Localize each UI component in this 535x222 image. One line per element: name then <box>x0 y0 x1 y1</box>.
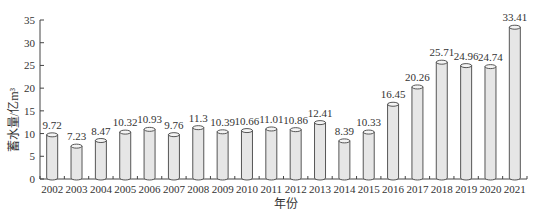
x-tick-label: 2017 <box>406 183 429 195</box>
bar: 11.01 <box>259 113 283 180</box>
bar: 9.76 <box>164 119 184 180</box>
bar-value-label: 11.01 <box>259 113 283 125</box>
bar-value-label: 12.41 <box>308 107 333 119</box>
bar: 25.71 <box>429 46 454 180</box>
bar: 10.32 <box>113 116 138 180</box>
bar: 24.74 <box>478 51 503 180</box>
x-axis: 2002200320042005200620072008200920102011… <box>40 176 527 195</box>
bar: 10.66 <box>235 115 260 180</box>
x-tick-label: 2002 <box>41 183 63 195</box>
x-tick-label: 2004 <box>90 183 113 195</box>
bar: 7.23 <box>67 130 87 180</box>
bars: 9.727.238.4710.3210.939.7611.310.3910.66… <box>43 11 528 180</box>
x-tick-label: 2003 <box>66 183 89 195</box>
bar-value-label: 10.39 <box>210 116 235 128</box>
bar-value-label: 33.41 <box>502 11 527 23</box>
x-tick-label: 2012 <box>285 183 307 195</box>
bar-value-label: 25.71 <box>429 46 454 58</box>
bar-value-label: 10.86 <box>283 114 308 126</box>
bar-value-label: 10.32 <box>113 116 138 128</box>
bar-value-label: 24.74 <box>478 51 503 63</box>
x-tick-label: 2009 <box>212 183 235 195</box>
y-axis: 05101520253035 <box>24 14 44 185</box>
bar: 10.33 <box>356 116 381 180</box>
x-tick-label: 2006 <box>139 183 162 195</box>
x-tick-label: 2016 <box>382 183 405 195</box>
x-tick-label: 2007 <box>163 183 186 195</box>
x-tick-label: 2014 <box>333 183 356 195</box>
bar-value-label: 10.66 <box>235 115 260 127</box>
bar-value-label: 20.26 <box>405 71 430 83</box>
y-tick-label: 5 <box>30 150 36 162</box>
y-tick-label: 25 <box>24 59 36 71</box>
bar-value-label: 11.3 <box>189 112 208 124</box>
x-tick-label: 2021 <box>504 183 526 195</box>
y-tick-label: 35 <box>24 14 36 26</box>
x-tick-label: 2015 <box>358 183 381 195</box>
x-tick-label: 2019 <box>455 183 478 195</box>
bar: 10.39 <box>210 116 235 180</box>
bar-value-label: 16.45 <box>381 88 406 100</box>
bar-value-label: 10.33 <box>356 116 381 128</box>
x-tick-label: 2018 <box>431 183 454 195</box>
y-tick-label: 15 <box>24 105 36 117</box>
bar: 24.96 <box>454 50 479 180</box>
bar-value-label: 24.96 <box>454 50 479 62</box>
x-tick-label: 2010 <box>236 183 259 195</box>
bar-value-label: 7.23 <box>67 130 87 142</box>
x-tick-label: 2011 <box>261 183 283 195</box>
bar: 12.41 <box>308 107 333 180</box>
bar: 9.72 <box>43 119 62 180</box>
reservoir-storage-bar-chart: 05101520253035 2002200320042005200620072… <box>0 0 535 222</box>
bar-value-label: 9.76 <box>164 119 184 131</box>
y-axis-label: 蓄水量/亿m³ <box>6 87 21 152</box>
bar-value-label: 8.47 <box>91 125 111 137</box>
bar: 33.41 <box>502 11 527 180</box>
x-tick-label: 2013 <box>309 183 332 195</box>
y-tick-label: 0 <box>30 173 36 185</box>
x-axis-label: 年份 <box>274 197 298 211</box>
bar: 8.39 <box>335 125 355 180</box>
y-tick-label: 20 <box>24 82 36 94</box>
bar: 8.47 <box>91 125 111 180</box>
bar: 16.45 <box>381 88 406 180</box>
bar: 10.86 <box>283 114 308 180</box>
bar: 10.93 <box>137 113 162 180</box>
bar-value-label: 10.93 <box>137 113 162 125</box>
bar-value-label: 8.39 <box>335 125 355 137</box>
bar: 20.26 <box>405 71 430 180</box>
x-tick-label: 2008 <box>187 183 210 195</box>
x-tick-label: 2005 <box>114 183 137 195</box>
y-tick-label: 10 <box>24 128 36 140</box>
y-tick-label: 30 <box>24 37 36 49</box>
x-tick-label: 2020 <box>479 183 502 195</box>
bar-value-label: 9.72 <box>43 119 62 131</box>
bar: 11.3 <box>189 112 208 180</box>
